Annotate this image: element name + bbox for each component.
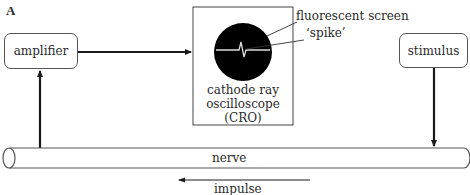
panel-label: A [6,3,15,19]
cro-label-line2: oscilloscope [193,97,293,111]
cro-label-line3: (CRO) [193,111,293,125]
amplifier-box: amplifier [4,33,78,69]
cro-label-line1: cathode ray [193,83,293,97]
cro-label: cathode ray oscilloscope (CRO) [193,83,293,125]
nerve-label: nerve [212,151,246,165]
screen-callout: fluorescent screen [296,9,409,23]
stimulus-label: stimulus [408,44,460,58]
impulse-label: impulse [214,182,262,195]
amplifier-label: amplifier [14,44,69,58]
spike-callout: ‘spike’ [306,26,346,40]
stimulus-box: stimulus [399,33,468,68]
